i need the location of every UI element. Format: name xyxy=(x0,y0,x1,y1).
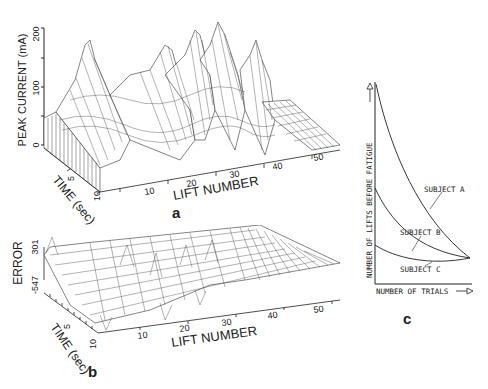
panel-letter-c: c xyxy=(403,310,411,327)
curve-subject-c xyxy=(375,245,470,261)
y-tick-10: 10 xyxy=(92,191,102,201)
x-tick-50: 50 xyxy=(313,304,324,315)
z-tick-bottom: -547 xyxy=(30,276,40,294)
panel-c-line-chart: SUBJECT A SUBJECT B SUBJECT C NUMBER OF … xyxy=(360,70,488,330)
y-tick-10: 10 xyxy=(88,339,98,349)
z-axis-label: ERROR xyxy=(11,241,25,285)
axes xyxy=(375,82,472,284)
x-tick-50: 50 xyxy=(313,151,325,163)
y-axis-arrow-icon xyxy=(367,83,373,102)
curve-subject-b xyxy=(375,188,470,258)
x-axis-arrow-icon xyxy=(456,288,473,294)
z-tick-100: 100 xyxy=(31,80,41,95)
z-tick-top: 301 xyxy=(30,239,40,254)
y-axis-label: NUMBER OF LIFTS BEFORE FATIGUE xyxy=(365,142,374,278)
x-axis-label: NUMBER OF TRIALS xyxy=(376,287,449,296)
z-axis-label: PEAK CURRENT (mA) xyxy=(16,34,28,147)
panel-letter-a: a xyxy=(172,204,181,221)
x-tick-40: 40 xyxy=(267,310,278,321)
x-tick-10: 10 xyxy=(144,185,156,197)
z-tick-0: 0 xyxy=(31,142,41,147)
panel-b-surface-chart: 301 -547 ERROR 10 20 30 40 50 LIF xyxy=(0,225,360,389)
panel-letter-b: b xyxy=(88,363,97,380)
label-subject-b: SUBJECT B xyxy=(400,228,441,237)
x-tick-40: 40 xyxy=(272,160,284,172)
z-axis xyxy=(41,28,44,145)
panel-a-surface-chart: 200 100 0 PEAK CURRENT (mA) xyxy=(0,0,360,225)
x-tick-10: 10 xyxy=(137,330,148,341)
error-surface-wireframe xyxy=(44,225,340,323)
z-tick-200: 200 xyxy=(31,26,41,41)
label-subject-c: SUBJECT C xyxy=(400,265,441,274)
x-axis-label: LIFT NUMBER xyxy=(172,173,260,203)
label-subject-a: SUBJECT A xyxy=(424,185,465,194)
